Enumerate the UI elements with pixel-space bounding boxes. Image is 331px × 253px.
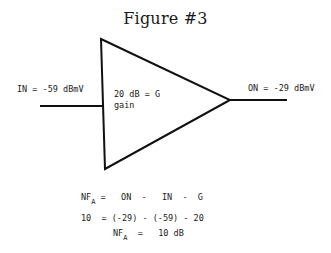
figure-canvas: Figure #3 IN = -59 dBmV 20 dB = G gain O… [0, 0, 331, 253]
nf-symbol: NF [81, 192, 91, 202]
input-signal-label: IN = -59 dBmV [17, 84, 84, 94]
equation-line-1: NFA = ON - IN - G [81, 192, 203, 203]
equation-line-3: NFA = 10 dB [113, 228, 184, 239]
nf-subscript: A [91, 198, 95, 206]
equation-line-2: 10 = (-29) - (-59) - 20 [81, 213, 204, 223]
output-signal-label: ON = -29 dBmV [248, 83, 315, 93]
nf-symbol: NF [113, 228, 123, 238]
equation-result: = 10 dB [138, 228, 184, 238]
gain-label: 20 dB = G [114, 89, 160, 99]
nf-subscript: A [123, 234, 127, 242]
equation-rhs: = ON - IN - G [101, 192, 203, 202]
gain-caption: gain [114, 100, 134, 110]
